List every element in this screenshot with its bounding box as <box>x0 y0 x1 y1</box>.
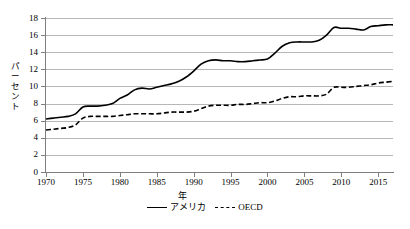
y-axis-tick <box>41 86 45 87</box>
x-axis-tick-label: 1990 <box>174 178 214 187</box>
x-axis-tick <box>46 173 47 177</box>
x-axis-tick <box>120 173 121 177</box>
y-axis-tick <box>41 52 45 53</box>
x-axis-tick <box>267 173 268 177</box>
y-axis-title: パーセント <box>9 61 21 111</box>
y-axis-line <box>45 17 46 173</box>
x-axis-tick <box>83 173 84 177</box>
chart-legend: アメリカOECD <box>0 203 410 212</box>
y-axis-tick <box>41 69 45 70</box>
plot-area <box>46 18 393 172</box>
x-axis-tick <box>157 173 158 177</box>
x-axis-tick <box>378 173 379 177</box>
y-axis-tick <box>41 121 45 122</box>
x-axis-tick-label: 1975 <box>63 178 103 187</box>
x-axis-tick <box>194 173 195 177</box>
y-axis-tick <box>41 155 45 156</box>
y-axis-tick-label: 6 <box>8 116 38 125</box>
y-axis-tick <box>41 18 45 19</box>
series-layer <box>46 18 393 172</box>
y-axis-tick <box>41 35 45 36</box>
y-axis-tick-label: 4 <box>8 133 38 142</box>
x-axis-tick <box>231 173 232 177</box>
y-axis-tick-label: 0 <box>8 168 38 177</box>
x-axis-tick-label: 1970 <box>26 178 66 187</box>
y-axis-tick-labels: 024681012141618 <box>0 0 38 229</box>
caption-strip <box>0 222 410 229</box>
y-axis-tick-label: 16 <box>8 31 38 40</box>
y-axis-tick <box>41 138 45 139</box>
x-axis-tick-label: 2005 <box>284 178 324 187</box>
x-axis-tick-label: 1995 <box>211 178 251 187</box>
y-axis-tick <box>41 104 45 105</box>
chart-figure: 024681012141618 197019751980198519901995… <box>0 0 410 229</box>
x-axis-tick-label: 1980 <box>100 178 140 187</box>
x-axis-tick <box>304 173 305 177</box>
x-axis-tick-label: 2015 <box>358 178 398 187</box>
x-axis-tick-label: 1985 <box>137 178 177 187</box>
y-axis-tick-label: 2 <box>8 150 38 159</box>
y-axis-tick-label: 18 <box>8 14 38 23</box>
legend-item[interactable]: アメリカ <box>147 203 206 212</box>
legend-label: アメリカ <box>170 203 206 212</box>
legend-item[interactable]: OECD <box>215 203 263 212</box>
x-axis-tick-label: 2010 <box>321 178 361 187</box>
y-axis-tick <box>41 172 45 173</box>
legend-label: OECD <box>238 203 263 212</box>
x-axis-tick-label: 2000 <box>247 178 287 187</box>
x-axis-tick <box>341 173 342 177</box>
legend-line-icon <box>147 207 167 208</box>
y-axis-tick-label: 14 <box>8 48 38 57</box>
x-axis-title: 年 <box>178 192 187 201</box>
legend-line-icon <box>215 207 235 208</box>
